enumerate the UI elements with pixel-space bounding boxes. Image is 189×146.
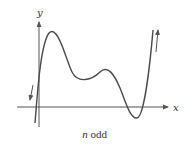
x-axis-label: x [173,102,179,113]
polynomial-sketch: y x [0,0,189,146]
left-end-arrow-icon [30,85,33,100]
right-end-arrow-icon [156,30,158,52]
caption-text: odd [88,128,107,140]
polynomial-curve [35,30,153,123]
figure-caption: n odd [0,128,189,140]
y-axis-label: y [36,7,43,18]
